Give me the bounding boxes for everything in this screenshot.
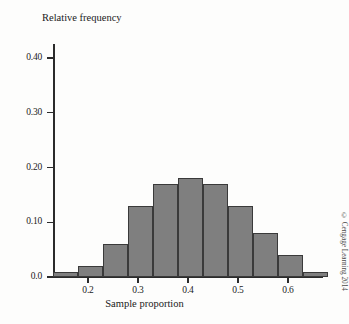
bar-series: [0, 0, 349, 324]
histogram-bar: [278, 255, 303, 277]
x-axis-title: Sample proportion: [0, 298, 349, 309]
histogram-bar: [253, 233, 278, 277]
histogram-bar: [53, 272, 78, 277]
copyright-credit: © Cengage Learning 2014: [340, 212, 348, 291]
histogram-bar: [128, 206, 153, 277]
histogram-bar: [103, 244, 128, 277]
histogram-bar: [178, 178, 203, 277]
histogram-bar: [228, 206, 253, 277]
x-axis-title-text: Sample proportion: [105, 298, 183, 309]
histogram-bar: [153, 184, 178, 277]
plot-area: Relative frequency 0.00.100.200.300.40 0…: [0, 0, 349, 324]
histogram-bar: [303, 272, 328, 277]
histogram-bar: [203, 184, 228, 277]
histogram-figure: Relative frequency 0.00.100.200.300.40 0…: [0, 0, 349, 324]
histogram-bar: [78, 266, 103, 277]
